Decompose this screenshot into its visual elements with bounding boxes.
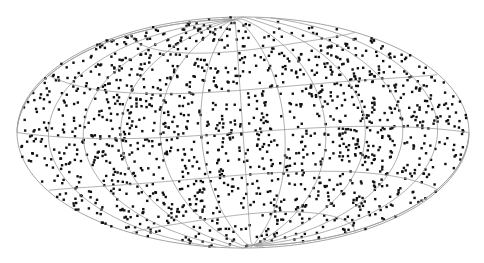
data-point [170,147,172,149]
data-point [180,36,182,38]
data-point [446,137,448,139]
data-point [369,129,371,131]
data-point [135,102,137,104]
data-point [111,64,113,66]
data-point [74,198,76,200]
data-point [185,210,187,212]
sky-map [0,0,484,263]
data-point [256,145,258,147]
data-point [410,116,412,118]
data-point [108,107,110,109]
data-point [138,119,140,121]
data-point [155,158,157,160]
data-point [412,191,414,193]
data-point [381,166,383,168]
data-point [89,196,91,198]
data-point [342,155,344,157]
data-point [162,177,164,179]
data-point [364,161,366,163]
data-point [130,85,132,87]
data-point [173,116,175,118]
data-point [359,152,361,154]
data-point [206,151,208,153]
data-point [127,109,129,111]
data-point [26,140,28,142]
data-point [300,183,302,185]
data-point [373,98,375,100]
data-point [42,107,44,109]
data-point [227,160,229,162]
data-point [329,157,331,159]
data-point [365,117,367,119]
data-point [80,160,82,162]
data-point [292,93,294,95]
data-point [77,208,79,210]
data-point [41,138,43,140]
data-point [110,113,112,115]
data-point [43,121,45,123]
data-point [60,157,62,159]
data-point [210,67,212,69]
data-point [132,205,134,207]
data-point [58,108,60,110]
data-point [63,131,65,133]
data-point [372,80,374,82]
data-point [94,98,96,100]
data-point [260,56,262,58]
data-point [159,94,161,96]
data-point [128,210,130,212]
data-point [118,87,120,89]
data-point [379,146,381,148]
data-point [355,147,357,149]
data-point [301,123,303,125]
data-point [268,55,270,57]
data-point [419,121,421,123]
data-point [200,200,202,202]
data-point [183,148,185,150]
data-point [328,199,330,201]
data-point [380,47,382,49]
data-point [444,163,446,165]
data-point [371,106,373,108]
data-point [238,150,240,152]
data-point [68,143,70,145]
data-point [221,115,223,117]
data-point [261,94,263,96]
data-point [330,73,332,75]
data-point [73,103,75,105]
data-point [221,118,223,120]
data-point [290,69,292,71]
data-point [163,112,165,114]
data-point [453,167,455,169]
data-point [343,92,345,94]
data-point [155,231,157,233]
data-point [124,57,126,59]
data-point [365,50,367,52]
data-point [128,74,130,76]
data-point [217,195,219,197]
data-point [149,38,151,40]
data-point [206,63,208,65]
data-point [418,65,420,67]
data-point [91,135,93,137]
data-point [90,55,92,57]
data-point [338,120,340,122]
data-point [225,152,227,154]
data-point [212,102,214,104]
data-point [169,53,171,55]
data-point [360,120,362,122]
data-point [400,54,402,56]
data-point [302,156,304,158]
data-point [57,175,59,177]
data-point [162,131,164,133]
data-point [166,77,168,79]
data-point [102,222,104,224]
data-point [422,120,424,122]
data-point [284,68,286,70]
data-point [308,59,310,61]
data-point [57,76,59,78]
data-point [198,110,200,112]
data-point [201,191,203,193]
data-point [289,220,291,222]
data-point [425,67,427,69]
